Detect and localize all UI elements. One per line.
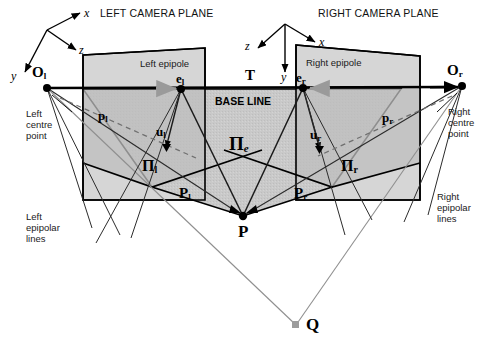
- right-axis-x: [285, 24, 315, 42]
- left-image-plane-label: Πl: [142, 157, 157, 175]
- right-image-point-subscript: r: [389, 116, 393, 126]
- left-ray-vector-subscript: l: [163, 130, 166, 140]
- right-camera-centre-subscript: r: [459, 69, 463, 79]
- right-camera-centre-marker: [458, 82, 466, 90]
- right-epipole-label: er: [296, 70, 306, 86]
- left-projection-label: Pl: [179, 185, 191, 202]
- left-axis-x-label: x: [84, 6, 89, 21]
- epipolar-plane-letter: Π: [229, 133, 244, 154]
- left-image-point-label: pl: [98, 108, 108, 124]
- left-projection-subscript: l: [188, 192, 191, 202]
- right-axis-z: [258, 24, 285, 48]
- right-centre-point-caption: Rightcentrepoint: [448, 106, 474, 139]
- left-axis-y-label: y: [11, 69, 16, 84]
- left-ray-vector-label: ul: [156, 124, 166, 140]
- right-camera-centre-label: Or: [447, 62, 463, 79]
- right-image-point-label: pr: [382, 110, 393, 126]
- right-camera-centre-letter: O: [447, 62, 459, 78]
- left-epipole-subscript: l: [182, 77, 185, 87]
- epipolar-geometry-figure: LEFT CAMERA PLANE RIGHT CAMERA PLANE x z…: [0, 0, 489, 352]
- right-projection-label: Pr: [294, 185, 307, 202]
- right-projection-subscript: r: [303, 192, 307, 202]
- baseline: [47, 87, 455, 88]
- scene-point-P-marker: [239, 212, 247, 220]
- second-point-Q-marker: [292, 321, 299, 328]
- left-epipolar-lines-caption: Leftepipolarlines: [26, 211, 60, 244]
- left-image-plane-subscript: l: [154, 164, 157, 175]
- right-epipolar-lines-caption: Rightepipolarlines: [437, 191, 471, 224]
- left-camera-centre-subscript: l: [44, 71, 47, 81]
- right-image-plane-subscript: r: [353, 164, 357, 175]
- right-image-plane-label: Πr: [341, 157, 358, 175]
- left-axis-x: [47, 13, 80, 30]
- left-image-point-subscript: l: [105, 114, 108, 124]
- left-camera-plane-title: LEFT CAMERA PLANE: [100, 7, 214, 19]
- right-camera-plane-title: RIGHT CAMERA PLANE: [318, 7, 439, 19]
- left-centre-point-caption: Leftcentrepoint: [26, 108, 52, 141]
- scene-point-P-label: P: [238, 222, 248, 242]
- left-camera-centre-label: Ol: [32, 64, 46, 81]
- epipolar-plane-subscript: e: [244, 142, 249, 154]
- right-axis-z-label: z: [245, 39, 250, 54]
- left-epipole-label: el: [176, 71, 184, 87]
- left-camera-centre-marker: [43, 84, 51, 92]
- epipolar-plane-label: Πe: [229, 133, 249, 155]
- left-axis-z-label: z: [79, 43, 84, 58]
- left-image-plane-letter: Π: [142, 157, 154, 174]
- left-epipole-caption: Left epipole: [140, 58, 189, 69]
- right-axis-y-label: y: [281, 70, 286, 85]
- right-epipole-subscript: r: [302, 76, 306, 86]
- right-projection-letter: P: [294, 185, 303, 201]
- right-ray-vector-subscript: r: [317, 133, 321, 143]
- left-axis-z: [47, 30, 76, 50]
- right-ray-vector-label: ur: [310, 127, 321, 143]
- right-epipole-caption: Right epipole: [306, 57, 361, 68]
- baseline-label: BASE LINE: [215, 95, 271, 107]
- left-camera-centre-letter: O: [32, 64, 44, 80]
- left-projection-letter: P: [179, 185, 188, 201]
- translation-label: T: [245, 67, 255, 84]
- second-point-Q-label: Q: [306, 315, 319, 335]
- right-axis-x-label: x: [319, 35, 324, 50]
- right-image-plane-letter: Π: [341, 157, 353, 174]
